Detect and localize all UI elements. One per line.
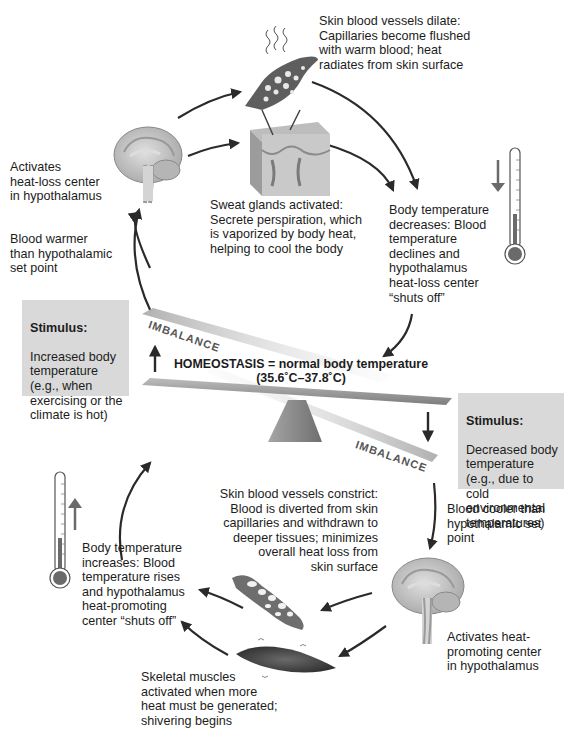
bottom-blood-state-label: Blood cooler than hypothalamic set point — [447, 502, 545, 546]
top-result-label: Body temperature decreases: Blood temper… — [389, 203, 489, 305]
arrow-muscle-to-result-bottom — [182, 622, 228, 655]
thermometer-down-icon — [491, 148, 525, 264]
heat-waves-icon — [266, 26, 287, 54]
top-effector-sweat-label: Sweat glands activated: Secrete perspira… — [210, 198, 362, 256]
top-blood-state-label: Blood warmer than hypothalamic set point — [10, 232, 112, 276]
arrow-brain-to-sweat — [188, 143, 238, 156]
bottom-effector-muscles-label: Skeletal muscles activated when more hea… — [141, 670, 278, 728]
arrow-brain-to-vessels-bottom — [322, 593, 372, 610]
arrow-vessels-to-result-bottom — [200, 590, 243, 608]
top-effector-vessels-label: Skin blood vessels dilate: Capillaries b… — [319, 14, 470, 72]
homeostasis-title: HOMEOSTASIS = normal body temperature — [160, 357, 442, 371]
top-control-center-label: Activates heat-loss center in hypothalam… — [10, 160, 102, 204]
brain-top-icon — [114, 127, 182, 203]
dilated-vessels-icon — [245, 56, 318, 110]
stimulus-decreased-title: Stimulus: — [466, 414, 558, 429]
stimulus-increased-text: Increased body temperature (e.g., when e… — [30, 350, 122, 422]
bottom-control-center-label: Activates heat- promoting center in hypo… — [447, 630, 542, 674]
homeostasis-label: HOMEOSTASIS = normal body temperature (3… — [160, 357, 442, 385]
stimulus-increased-box: Stimulus: Increased body temperature (e.… — [22, 300, 129, 396]
arrow-sweat-to-result — [325, 144, 393, 190]
stimulus-decreased-box: Stimulus: Decreased body temperature (e.… — [458, 393, 564, 489]
bottom-effector-vessels-label: Skin blood vessels constrict: Blood is d… — [200, 487, 378, 575]
constricted-vessels-icon — [232, 575, 304, 630]
arrow-brain-to-vessels — [178, 92, 240, 118]
homeostasis-range: (35.6˚C–37.8˚C) — [160, 371, 442, 385]
thermometer-up-icon — [50, 472, 82, 588]
bottom-result-label: Body temperature increases: Blood temper… — [82, 541, 185, 629]
arrow-result-to-homeostasis — [384, 314, 412, 356]
arrow-brain-to-muscle — [340, 626, 386, 656]
skin-sweat-gland-icon — [250, 110, 330, 196]
stimulus-increased-title: Stimulus: — [30, 321, 123, 336]
arrow-imbalance-to-brain — [135, 210, 151, 312]
arrow-imbalance-to-brain-bottom — [430, 483, 435, 548]
